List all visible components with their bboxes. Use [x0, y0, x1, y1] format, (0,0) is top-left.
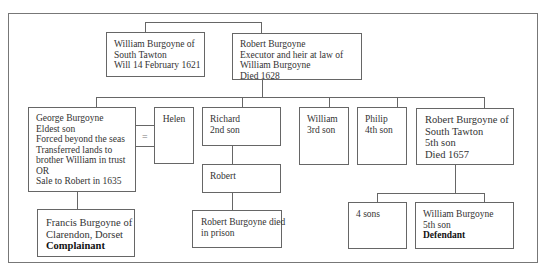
node-text: Died 1657	[425, 149, 505, 161]
node-text: Robert Burgoyne of	[425, 114, 505, 126]
node-william-sr: William Burgoyne of South Tawton Will 14…	[106, 32, 205, 77]
node-text: Clarendon, Dorset	[46, 229, 126, 241]
node-text: brother William in trust	[36, 155, 128, 166]
node-robert-sr: Robert Burgoyne Executor and heir at law…	[232, 33, 362, 80]
node-text: in prison	[201, 228, 273, 239]
node-text: Philip	[365, 114, 399, 125]
node-text: 2nd son	[210, 125, 273, 136]
node-text: 3rd son	[307, 125, 341, 136]
node-text: Will 14 February 1621	[114, 60, 197, 71]
node-text: William Burgoyne	[423, 209, 506, 220]
node-robert-prison: Robert Burgoyne died in prison	[192, 210, 282, 248]
node-helen: Helen	[154, 107, 194, 164]
node-text: Forced beyond the seas	[36, 134, 128, 145]
node-four-sons: 4 sons	[348, 202, 407, 249]
node-text: Helen	[159, 114, 189, 125]
node-text: Transferred lands to	[36, 145, 128, 156]
node-text: Francis Burgoyne of	[46, 217, 126, 229]
node-text: South Tawton	[425, 126, 505, 138]
marriage-symbol: =	[142, 131, 148, 142]
node-william-3rd: William 3rd son	[299, 107, 349, 165]
node-text: Richard	[210, 114, 273, 125]
node-text: 4 sons	[356, 209, 399, 220]
node-text: OR	[36, 166, 128, 177]
node-text: Sale to Robert in 1635	[36, 176, 128, 187]
node-text: William Burgoyne	[240, 60, 354, 71]
role-label-defendant: Defendant	[423, 230, 506, 241]
node-philip: Philip 4th son	[357, 107, 407, 165]
node-text: 5th son	[423, 220, 506, 231]
node-richard: Richard 2nd son	[202, 107, 281, 146]
node-text: Robert	[210, 171, 273, 182]
node-text: 4th son	[365, 125, 399, 136]
node-george: George Burgoyne Eldest son Forced beyond…	[28, 107, 136, 192]
node-francis: Francis Burgoyne of Clarendon, Dorset Co…	[37, 209, 135, 257]
node-text: Robert Burgoyne	[240, 39, 354, 50]
node-text: William Burgoyne of	[114, 39, 197, 50]
node-robert-jr: Robert	[202, 164, 281, 193]
node-text: Died 1628	[240, 71, 354, 82]
role-label-complainant: Complainant	[46, 240, 126, 252]
node-william-defendant: William Burgoyne 5th son Defendant	[415, 202, 514, 249]
node-text: Executor and heir at law of	[240, 50, 354, 61]
node-text: Eldest son	[36, 124, 128, 135]
node-text: William	[307, 114, 341, 125]
node-text: George Burgoyne	[36, 113, 128, 124]
node-text: South Tawton	[114, 50, 197, 61]
node-text: 5th son	[425, 137, 505, 149]
node-text: Robert Burgoyne died	[201, 217, 273, 228]
node-robert-5th: Robert Burgoyne of South Tawton 5th son …	[416, 108, 514, 165]
